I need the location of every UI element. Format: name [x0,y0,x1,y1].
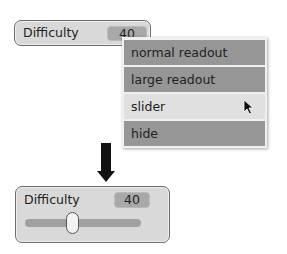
variable-watcher-slider[interactable]: Difficulty 40 [15,186,170,243]
slider-track[interactable] [25,219,141,227]
menu-item-normal-readout[interactable]: normal readout [124,40,265,65]
mouse-pointer-icon [243,99,255,115]
watcher-context-menu: normal readout large readout slider hide [122,37,267,148]
menu-item-hide[interactable]: hide [124,121,265,146]
watcher-value: 40 [114,192,150,208]
slider-thumb[interactable] [66,212,79,234]
watcher-label: Difficulty [24,192,80,207]
down-arrow-icon [97,143,115,183]
menu-item-large-readout[interactable]: large readout [124,67,265,92]
menu-item-slider[interactable]: slider [124,94,265,119]
menu-item-label: slider [131,99,165,114]
watcher-label: Difficulty [23,25,79,40]
